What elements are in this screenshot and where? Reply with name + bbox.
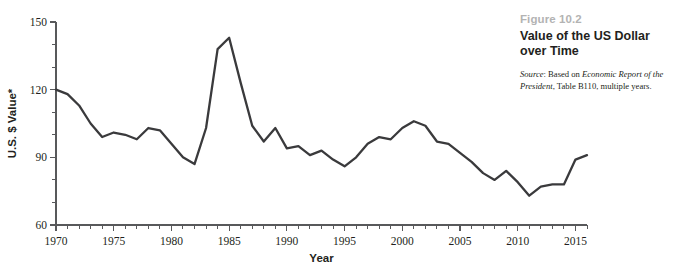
y-axis-title: U.S. $ Value* bbox=[6, 88, 18, 158]
x-axis-tick-label: 1980 bbox=[160, 235, 183, 247]
y-axis: 6090120150 bbox=[30, 16, 56, 231]
data-series-line bbox=[56, 38, 587, 196]
figure-container: 6090120150 19701975198019851990199520002… bbox=[0, 0, 676, 266]
x-axis-tick-label: 1970 bbox=[45, 235, 68, 247]
figure-title-line-1: Value of the US Dollar bbox=[520, 29, 650, 43]
x-axis-tick-label: 1985 bbox=[218, 235, 241, 247]
y-axis-tick-label: 60 bbox=[36, 219, 48, 231]
x-axis-tick-label: 1990 bbox=[275, 235, 298, 247]
data-series-group bbox=[56, 38, 587, 196]
x-axis-tick-label: 1975 bbox=[102, 235, 125, 247]
x-axis-tick-label: 2015 bbox=[564, 235, 587, 247]
figure-source-note: Source: Based on Economic Report of the … bbox=[520, 69, 670, 92]
x-axis-tick-label: 1995 bbox=[333, 235, 356, 247]
source-prefix: : Based on bbox=[544, 69, 582, 79]
y-axis-tick-label: 120 bbox=[30, 84, 48, 96]
source-label: Source bbox=[520, 69, 544, 79]
chart-area: 6090120150 19701975198019851990199520002… bbox=[0, 0, 600, 266]
line-chart-svg: 6090120150 19701975198019851990199520002… bbox=[0, 0, 600, 266]
figure-number-label: Figure 10.2 bbox=[520, 12, 670, 26]
figure-caption: Figure 10.2 Value of the US Dollar over … bbox=[520, 12, 670, 92]
source-suffix: , Table B110, multiple years. bbox=[553, 81, 652, 91]
y-axis-tick-label: 90 bbox=[36, 151, 48, 163]
x-axis-tick-label: 2010 bbox=[506, 235, 529, 247]
figure-title-line-2: over Time bbox=[520, 44, 579, 58]
x-axis-title: Year bbox=[309, 252, 334, 264]
x-axis: 1970197519801985199019952000200520102015 bbox=[45, 225, 588, 247]
x-axis-tick-label: 2000 bbox=[391, 235, 414, 247]
y-axis-tick-label: 150 bbox=[30, 16, 48, 28]
figure-title: Value of the US Dollar over Time bbox=[520, 29, 670, 59]
x-axis-tick-label: 2005 bbox=[449, 235, 472, 247]
